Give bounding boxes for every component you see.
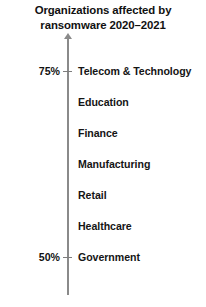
list-item: Telecom & Technology (78, 65, 191, 77)
list-item: Finance (78, 127, 118, 139)
list-item: Healthcare (78, 220, 132, 232)
ransomware-ranked-axis-figure: Organizations affected by ransomware 202… (0, 0, 206, 307)
list-item: Education (78, 96, 129, 108)
list-item: Retail (78, 189, 107, 201)
category-label-list: Telecom & Technology Education Finance M… (0, 0, 206, 307)
list-item: Government (78, 251, 140, 263)
list-item: Manufacturing (78, 158, 150, 170)
